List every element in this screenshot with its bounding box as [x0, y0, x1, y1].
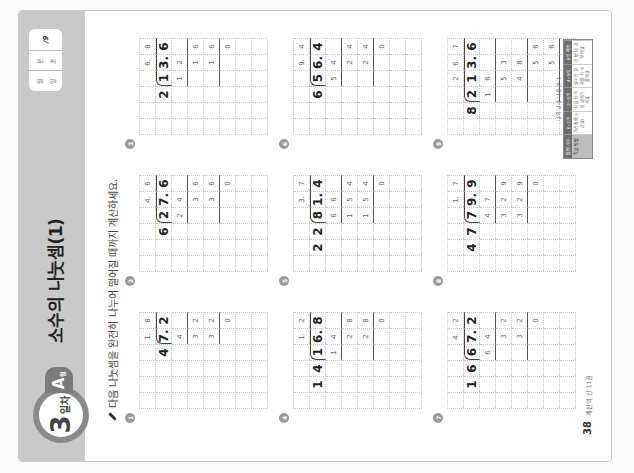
eval-cell: 학습 방법 — [572, 134, 592, 158]
grid-cell — [358, 255, 374, 271]
grid-cell — [528, 191, 544, 207]
grid-cell — [326, 239, 342, 255]
grid-cell: 4 — [172, 328, 188, 344]
grid-cell — [236, 255, 252, 271]
grid-cell: 6 — [326, 207, 342, 223]
grid-cell — [140, 239, 156, 255]
grid-cell: 0 — [374, 175, 390, 191]
grid-cell — [464, 118, 480, 134]
score-cell: /9 — [29, 29, 62, 50]
grid-cell — [528, 207, 544, 223]
grid-cell — [374, 86, 390, 102]
grid-cell: 2 — [310, 223, 326, 239]
grid-cell — [204, 360, 220, 376]
grid-cell: 6 — [480, 70, 496, 86]
grid-cell — [448, 102, 464, 118]
division-grid: 9.4656.45424240 — [293, 38, 422, 135]
grid-cell: 1. — [294, 328, 310, 344]
problem-number: 8 — [433, 276, 443, 286]
grid-cell — [390, 38, 406, 54]
grid-cell — [252, 191, 268, 207]
grid-cell: 2 — [188, 312, 204, 328]
grid-cell: 6 — [464, 344, 480, 360]
grid-cell — [294, 239, 310, 255]
grid-cell — [310, 392, 326, 408]
grid-cell — [236, 118, 252, 134]
grid-cell — [326, 360, 342, 376]
grid-cell: 2 — [342, 328, 358, 344]
grid-cell: 3. — [464, 54, 480, 70]
grid-cell: 2 — [156, 207, 172, 223]
grid-cell: 3. — [294, 191, 310, 207]
problem-number: 7 — [433, 413, 443, 423]
time-cell: 분 초 — [29, 50, 62, 71]
grid-cell: 2 — [512, 191, 528, 207]
grid-cell: 1 — [326, 344, 342, 360]
grid-cell — [544, 255, 560, 271]
grid-cell — [544, 239, 560, 255]
grid-cell — [496, 38, 512, 54]
division-grid: 6.8213.61216160 — [139, 38, 268, 135]
grid-cell — [220, 86, 236, 102]
grid-cell: 1 — [188, 54, 204, 70]
grid-cell: 1 — [358, 207, 374, 223]
grid-cell: 2 — [358, 328, 374, 344]
grid-cell — [358, 223, 374, 239]
grid-cell: 8 — [512, 54, 528, 70]
grid-cell — [448, 118, 464, 134]
grid-cell — [172, 86, 188, 102]
grid-cell — [204, 102, 220, 118]
grid-cell — [188, 360, 204, 376]
grid-cell — [220, 54, 236, 70]
grid-cell: 4 — [326, 54, 342, 70]
grid-cell — [342, 70, 358, 86]
eval-caption: 나의 날과 나를 한다 — [554, 39, 561, 159]
grid-cell — [544, 175, 560, 191]
grid-cell: 1 — [310, 376, 326, 392]
grid-cell — [342, 102, 358, 118]
grid-cell — [220, 328, 236, 344]
grid-cell: 4 — [310, 38, 326, 54]
grid-cell — [236, 191, 252, 207]
grid-cell — [204, 392, 220, 408]
grid-cell — [172, 376, 188, 392]
grid-cell: 6 — [156, 175, 172, 191]
grid-cell — [310, 102, 326, 118]
grid-cell — [204, 118, 220, 134]
grid-cell: 9. — [294, 54, 310, 70]
grid-cell: 1. — [448, 191, 464, 207]
day-label: 일 — [48, 78, 57, 84]
grid-cell — [406, 207, 422, 223]
grid-cell — [358, 70, 374, 86]
grid-cell — [374, 207, 390, 223]
grid-cell — [528, 239, 544, 255]
grid-cell — [326, 175, 342, 191]
grid-cell — [390, 328, 406, 344]
grid-cell — [172, 344, 188, 360]
grid-cell — [294, 118, 310, 134]
grid-cell: 1 — [172, 70, 188, 86]
grid-cell — [390, 118, 406, 134]
grid-cell — [236, 392, 252, 408]
grid-cell: 7 — [448, 38, 464, 54]
division-grid: 1.74779.9473293290 — [447, 175, 576, 272]
grid-cell — [342, 118, 358, 134]
grid-cell: 3 — [496, 207, 512, 223]
grid-cell — [374, 239, 390, 255]
eval-cell: 한 번 더 공부해요 — [572, 40, 592, 64]
grid-cell — [204, 376, 220, 392]
grid-cell — [390, 102, 406, 118]
grid-cell: 2 — [204, 312, 220, 328]
grid-cell — [204, 70, 220, 86]
grid-cell — [326, 255, 342, 271]
grid-cell — [236, 360, 252, 376]
grid-cell — [528, 255, 544, 271]
grid-cell: 8 — [358, 312, 374, 328]
grid-cell: 0 — [374, 312, 390, 328]
grid-cell — [374, 102, 390, 118]
grid-cell: 7. — [156, 191, 172, 207]
grid-cell — [156, 376, 172, 392]
grid-cell: 2 — [496, 191, 512, 207]
grid-cell — [496, 360, 512, 376]
grid-cell — [252, 223, 268, 239]
